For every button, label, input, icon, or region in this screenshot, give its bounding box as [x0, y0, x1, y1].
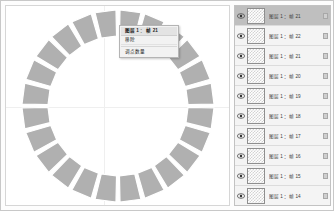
layer-thumbnail[interactable]: [247, 48, 265, 64]
layer-row[interactable]: 图层 1 ：帧 22: [235, 26, 330, 46]
lock-icon[interactable]: [323, 33, 328, 39]
lock-icon[interactable]: [323, 133, 328, 139]
lock-icon[interactable]: [323, 113, 328, 119]
layer-label: 图层 1 ：帧 17: [269, 133, 323, 139]
lock-icon[interactable]: [323, 153, 328, 159]
segmented-ring-shape[interactable]: [20, 8, 216, 204]
layer-row[interactable]: 图层 1 ：帧 15: [235, 166, 330, 186]
canvas-context-menu[interactable]: 图层 1 ： 帧 21 移除 调点数量: [119, 25, 179, 58]
eye-visibility-icon[interactable]: [237, 152, 245, 159]
layer-row[interactable]: 图层 1 ：帧 21: [235, 6, 330, 26]
layer-label: 图层 1 ：帧 22: [269, 33, 323, 39]
ring-segment[interactable]: [95, 10, 116, 38]
layer-row[interactable]: 图层 1 ：帧 20: [235, 66, 330, 86]
eye-visibility-icon[interactable]: [237, 12, 245, 19]
eye-visibility-icon[interactable]: [237, 172, 245, 179]
lock-icon[interactable]: [323, 13, 328, 19]
application-window: 图层 1 ： 帧 21 移除 调点数量 图层 1 ：帧 21图层 1 ：帧 22…: [0, 0, 334, 211]
ring-segment[interactable]: [185, 83, 213, 104]
ring-segment[interactable]: [119, 173, 140, 201]
eye-visibility-icon[interactable]: [237, 52, 245, 59]
layer-thumbnail[interactable]: [247, 68, 265, 84]
context-menu-separator: [121, 46, 177, 47]
context-menu-item-2[interactable]: 调点数量: [121, 48, 177, 56]
layer-row[interactable]: 图层 1 ：帧 18: [235, 106, 330, 126]
eye-visibility-icon[interactable]: [237, 72, 245, 79]
layer-thumbnail[interactable]: [247, 8, 265, 24]
lock-icon[interactable]: [323, 93, 328, 99]
layers-panel[interactable]: 图层 1 ：帧 21图层 1 ：帧 22图层 1 ：帧 21图层 1 ：帧 20…: [234, 5, 331, 206]
eye-visibility-icon[interactable]: [237, 132, 245, 139]
ring-svg: [20, 8, 216, 204]
layer-row[interactable]: 图层 1 ：帧 21: [235, 46, 330, 66]
context-menu-item-1[interactable]: 移除: [121, 36, 177, 45]
layer-thumbnail[interactable]: [247, 108, 265, 124]
eye-visibility-icon[interactable]: [237, 32, 245, 39]
layer-label: 图层 1 ：帧 21: [269, 13, 323, 19]
lock-icon[interactable]: [323, 73, 328, 79]
layer-thumbnail[interactable]: [247, 188, 265, 204]
canvas-stage[interactable]: 图层 1 ： 帧 21 移除 调点数量: [5, 5, 230, 206]
layer-row[interactable]: 图层 1 ：帧 14: [235, 186, 330, 206]
layer-label: 图层 1 ：帧 20: [269, 73, 323, 79]
lock-icon[interactable]: [323, 53, 328, 59]
layer-label: 图层 1 ：帧 16: [269, 153, 323, 159]
layer-thumbnail[interactable]: [247, 168, 265, 184]
layer-row[interactable]: 图层 1 ：帧 19: [235, 86, 330, 106]
eye-visibility-icon[interactable]: [237, 92, 245, 99]
layer-row[interactable]: 图层 1 ：帧 17: [235, 126, 330, 146]
eye-visibility-icon[interactable]: [237, 112, 245, 119]
layer-thumbnail[interactable]: [247, 148, 265, 164]
ring-segment[interactable]: [22, 107, 50, 128]
layer-label: 图层 1 ：帧 14: [269, 193, 323, 199]
layer-thumbnail[interactable]: [247, 28, 265, 44]
layer-label: 图层 1 ：帧 19: [269, 93, 323, 99]
layer-label: 图层 1 ：帧 21: [269, 53, 323, 59]
eye-visibility-icon[interactable]: [237, 192, 245, 199]
lock-icon[interactable]: [323, 173, 328, 179]
layer-label: 图层 1 ：帧 18: [269, 113, 323, 119]
layer-thumbnail[interactable]: [247, 88, 265, 104]
ring-segment[interactable]: [185, 107, 213, 128]
layer-row[interactable]: 图层 1 ：帧 16: [235, 146, 330, 166]
ring-segment[interactable]: [95, 173, 116, 201]
lock-icon[interactable]: [323, 193, 328, 199]
ring-segment[interactable]: [22, 83, 50, 104]
layer-thumbnail[interactable]: [247, 128, 265, 144]
context-menu-item-0[interactable]: 图层 1 ： 帧 21: [121, 27, 177, 36]
layer-label: 图层 1 ：帧 15: [269, 173, 323, 179]
